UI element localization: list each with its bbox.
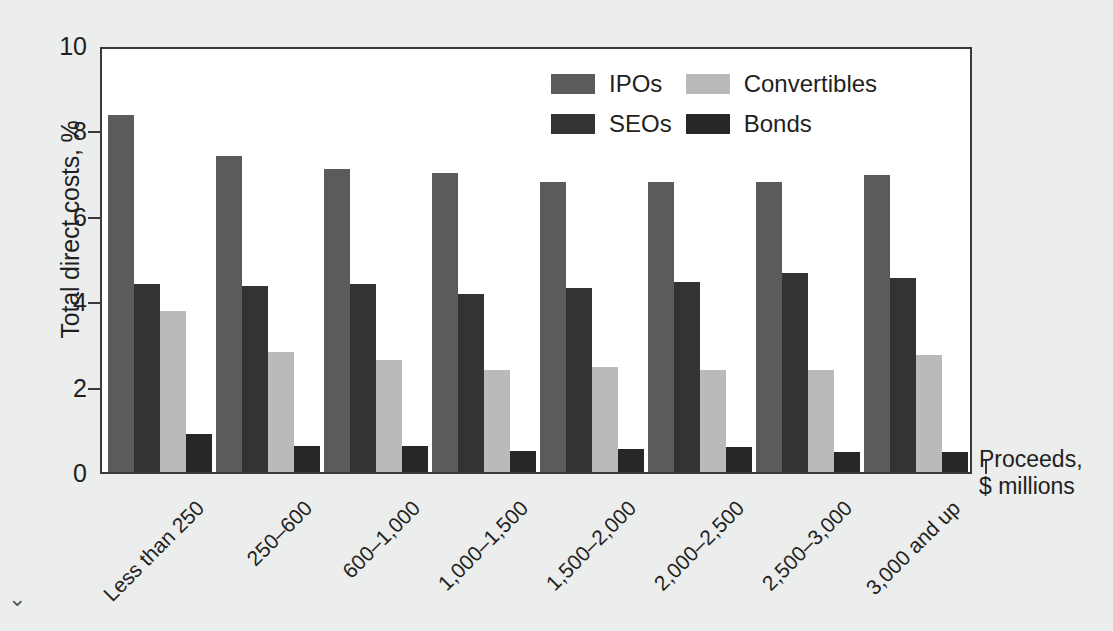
bar-group: [216, 49, 320, 472]
bar-ipos: [756, 182, 782, 472]
bar-ipos: [324, 169, 350, 472]
bar-ipos: [864, 175, 890, 472]
bar-convertibles: [376, 360, 402, 472]
x-axis-label: 1,000–1,500: [433, 496, 533, 596]
bar-seos: [782, 273, 808, 472]
bar-bonds: [510, 451, 536, 472]
bar-ipos: [540, 182, 566, 472]
y-axis-tick-label: 6: [27, 203, 87, 232]
bar-group: [108, 49, 212, 472]
bar-seos: [458, 294, 484, 472]
x-axis-title: Proceeds, $ millions: [979, 446, 1083, 500]
y-axis-tick-label: 0: [27, 459, 87, 488]
x-axis-category-labels: Less than 250250–600600–1,0001,000–1,500…: [100, 474, 972, 624]
x-axis-label: Less than 250: [99, 496, 209, 606]
legend-label-ipos: IPOs: [609, 70, 672, 98]
bar-convertibles: [484, 370, 510, 472]
bar-group: [432, 49, 536, 472]
x-axis-label: 1,500–2,000: [541, 496, 641, 596]
bar-seos: [134, 284, 160, 472]
x-axis-label: 2,500–3,000: [757, 496, 857, 596]
bar-convertibles: [700, 370, 726, 472]
legend-label-convertibles: Convertibles: [744, 70, 877, 98]
y-axis-tick: [88, 131, 100, 133]
bar-bonds: [834, 452, 860, 472]
bar-seos: [890, 278, 916, 472]
bar-bonds: [618, 449, 644, 472]
y-axis-tick: [88, 388, 100, 390]
bar-ipos: [216, 156, 242, 472]
bar-bonds: [294, 446, 320, 472]
bar-bonds: [726, 447, 752, 472]
bar-chart-figure: Total direct costs, % 1086420 Less than …: [0, 0, 1113, 631]
bar-convertibles: [268, 352, 294, 472]
bar-convertibles: [592, 367, 618, 472]
x-axis-title-line-2: $ millions: [979, 473, 1083, 500]
y-axis-tick-label: 8: [27, 117, 87, 146]
bar-group: [324, 49, 428, 472]
y-axis-tick-label: 10: [27, 32, 87, 61]
bar-bonds: [402, 446, 428, 472]
bar-convertibles: [808, 370, 834, 472]
bar-seos: [242, 286, 268, 472]
bar-convertibles: [916, 355, 942, 472]
bar-ipos: [108, 115, 134, 472]
legend-label-bonds: Bonds: [744, 110, 877, 138]
corner-mark: ⌄: [8, 586, 26, 612]
bar-seos: [566, 288, 592, 472]
x-axis-label: 2,000–2,500: [649, 496, 749, 596]
y-axis-tick-label: 2: [27, 374, 87, 403]
legend-swatch-bonds: [686, 114, 730, 134]
chart-legend: IPOsConvertiblesSEOsBonds: [551, 70, 877, 138]
x-axis-label: 3,000 and up: [861, 496, 965, 600]
legend-swatch-seos: [551, 114, 595, 134]
x-axis-label: 600–1,000: [338, 496, 425, 583]
bar-seos: [674, 282, 700, 472]
legend-swatch-convertibles: [686, 74, 730, 94]
y-axis-tick-label: 4: [27, 288, 87, 317]
bar-ipos: [648, 182, 674, 472]
bar-ipos: [432, 173, 458, 472]
bar-convertibles: [160, 311, 186, 472]
legend-swatch-ipos: [551, 74, 595, 94]
y-axis-tick: [88, 302, 100, 304]
x-axis-label: 250–600: [242, 496, 317, 571]
x-axis-title-line-1: Proceeds,: [979, 446, 1083, 473]
y-axis-tick: [88, 217, 100, 219]
bar-group: [864, 49, 968, 472]
bar-seos: [350, 284, 376, 472]
legend-label-seos: SEOs: [609, 110, 672, 138]
bar-bonds: [942, 452, 968, 472]
bar-bonds: [186, 434, 212, 472]
